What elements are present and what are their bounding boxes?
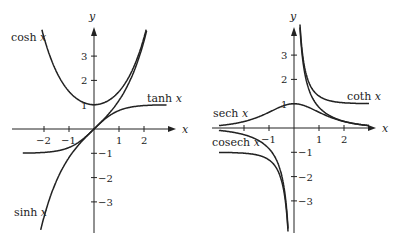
right-x-axis-label: x (382, 122, 389, 135)
cosech-label: cosech x (212, 136, 261, 149)
y-tick-label: 2 (281, 74, 287, 85)
y-tick-label: 3 (81, 51, 87, 62)
y-tick-label: −3 (98, 197, 113, 208)
y-tick-label: −3 (298, 196, 313, 207)
cosh-label: cosh x (11, 31, 47, 44)
right-y-axis-arrow-icon (291, 27, 297, 36)
left-y-axis-label: y (88, 10, 96, 23)
x-tick-label: 2 (341, 134, 347, 145)
y-tick-label: −1 (298, 147, 313, 158)
y-tick-label: −1 (98, 148, 113, 159)
y-tick-label: 2 (81, 75, 87, 86)
x-tick-label: −2 (36, 135, 51, 146)
y-tick-label: −2 (98, 173, 113, 184)
cosech-curve-positive-branch (300, 27, 369, 125)
hyperbolic-functions-figure: −2−112321−1−2−3 x y cosh x tanh x sinh x… (0, 0, 394, 243)
coth-label: coth x (347, 90, 382, 103)
left-x-axis-arrow-icon (168, 126, 176, 132)
x-tick-label: 1 (316, 134, 322, 145)
x-tick-label: 1 (116, 135, 122, 146)
sech-label: sech x (213, 107, 249, 120)
y-tick-label: 3 (281, 50, 287, 61)
right-x-axis-arrow-icon (368, 125, 376, 131)
left-plot: −2−112321−1−2−3 x y cosh x tanh x sinh x (11, 10, 189, 233)
x-tick-label: −1 (61, 135, 76, 146)
tanh-label: tanh x (147, 92, 183, 105)
left-y-axis-arrow-icon (91, 27, 97, 36)
y-tick-label: −2 (298, 172, 313, 183)
right-plot: −112321−1−2−3 x y sech x cosech x coth x (212, 10, 389, 233)
sinh-label: sinh x (14, 206, 48, 219)
left-x-axis-label: x (182, 123, 189, 136)
right-y-axis-label: y (289, 10, 297, 23)
x-tick-label: 2 (141, 135, 147, 146)
